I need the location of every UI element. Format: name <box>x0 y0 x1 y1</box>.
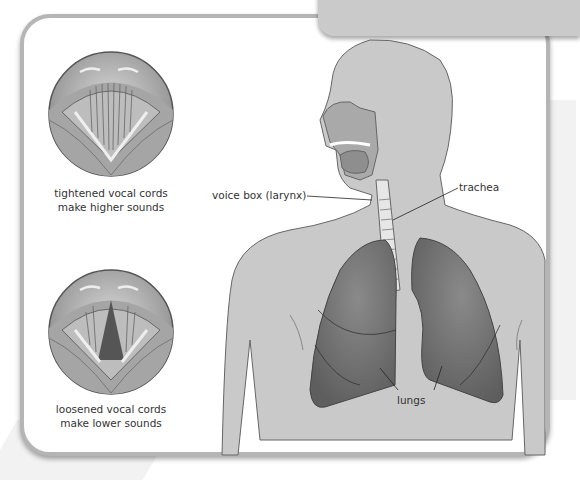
loosened-vocal-cords-illustration <box>49 270 173 400</box>
tightened-caption: tightened vocal cords make higher sounds <box>46 186 176 214</box>
tightened-vocal-cords-illustration <box>49 52 173 180</box>
trachea-label: trachea <box>459 180 499 194</box>
lungs-label: lungs <box>397 393 425 407</box>
larynx-label: voice box (larynx) <box>212 188 306 202</box>
loosened-caption: loosened vocal cords make lower sounds <box>46 402 176 430</box>
human-body-illustration <box>222 40 545 455</box>
